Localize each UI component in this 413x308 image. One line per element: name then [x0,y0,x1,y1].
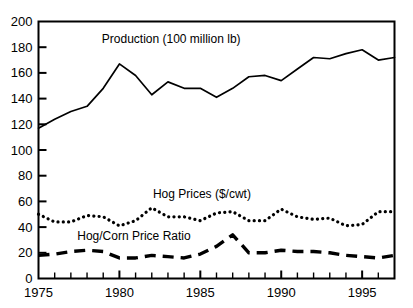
x-tick-label-1995: 1995 [348,285,377,300]
y-tick-label-80: 80 [18,168,32,183]
x-tick-label-1990: 1990 [267,285,296,300]
x-tick-label-1980: 1980 [105,285,134,300]
y-tick-label-200: 200 [11,14,33,29]
line-chart: 020406080100120140160180200 197519801985… [0,0,413,308]
chart-figure: 020406080100120140160180200 197519801985… [0,0,413,308]
y-tick-label-40: 40 [18,220,32,235]
series-label-2: Hog/Corn Price Ratio [77,229,191,243]
y-tick-label-140: 140 [11,91,33,106]
x-tick-label-1985: 1985 [186,285,215,300]
y-tick-label-60: 60 [18,194,32,209]
x-tick-label-1975: 1975 [24,285,53,300]
series-label-0: Production (100 million lb) [102,32,241,46]
y-tick-label-100: 100 [11,143,33,158]
series-label-1: Hog Prices ($/cwt) [153,187,251,201]
y-tick-label-120: 120 [11,117,33,132]
y-tick-label-20: 20 [18,245,32,260]
y-tick-label-160: 160 [11,65,33,80]
y-tick-label-180: 180 [11,40,33,55]
